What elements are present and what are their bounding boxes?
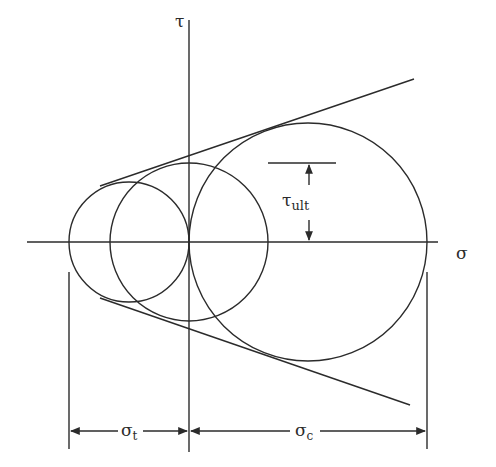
upper-failure-envelope <box>100 79 414 186</box>
sigma-t-label: σt <box>121 420 138 443</box>
tau-axis-label: τ <box>175 11 184 31</box>
lower-failure-envelope <box>100 298 410 405</box>
sigma-axis-label: σ <box>456 243 468 263</box>
mohr-circle-diagram: τult τ σ σt σc <box>0 0 496 467</box>
tau-ult-label: τult <box>282 190 310 213</box>
sigma-c-label: σc <box>295 420 314 443</box>
